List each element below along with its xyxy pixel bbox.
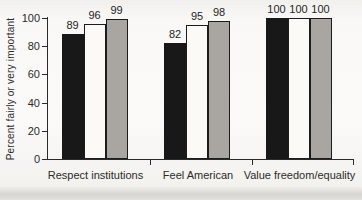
y-tick: [42, 74, 47, 75]
y-tick: [42, 46, 47, 47]
x-axis-line: [47, 159, 354, 160]
bar-chart: Percent fairly or very important 0204060…: [0, 0, 362, 200]
bar-gray-bars: [106, 19, 128, 159]
scan-shadow: [0, 186, 362, 200]
category-label: Feel American: [163, 169, 233, 182]
y-tick-label: 0: [10, 154, 40, 165]
y-tick: [42, 159, 47, 160]
category-label: Respect institutions: [48, 169, 143, 182]
x-tick: [252, 160, 253, 165]
y-axis-title: Percent fairly or very important: [5, 18, 16, 161]
bar-value-label: 100: [267, 3, 285, 15]
bar-gray-bars: [310, 18, 332, 159]
bar-white-bars: [288, 18, 310, 159]
x-tick: [353, 160, 354, 165]
bar-gray-bars: [208, 21, 230, 159]
bar-value-label: 99: [110, 4, 122, 16]
x-tick: [150, 160, 151, 165]
y-tick-label: 40: [10, 98, 40, 109]
y-tick: [42, 18, 47, 19]
bar-value-label: 89: [66, 19, 78, 31]
bar-black-bars: [164, 43, 186, 159]
bar-white-bars: [84, 24, 106, 159]
y-axis-line: [47, 17, 48, 160]
y-tick: [42, 103, 47, 104]
bar-black-bars: [266, 18, 288, 159]
bar-white-bars: [186, 25, 208, 159]
category-label: Value freedom/equality: [244, 169, 356, 182]
bar-value-label: 82: [169, 28, 181, 40]
y-tick-label: 20: [10, 126, 40, 137]
y-tick-label: 60: [10, 69, 40, 80]
y-tick-label: 80: [10, 41, 40, 52]
y-tick-label: 100: [10, 13, 40, 24]
bar-value-label: 96: [88, 9, 100, 21]
y-tick: [42, 131, 47, 132]
bar-value-label: 100: [289, 3, 307, 15]
bar-value-label: 98: [213, 6, 225, 18]
bar-black-bars: [62, 34, 84, 159]
bar-value-label: 100: [311, 3, 329, 15]
bar-value-label: 95: [191, 10, 203, 22]
